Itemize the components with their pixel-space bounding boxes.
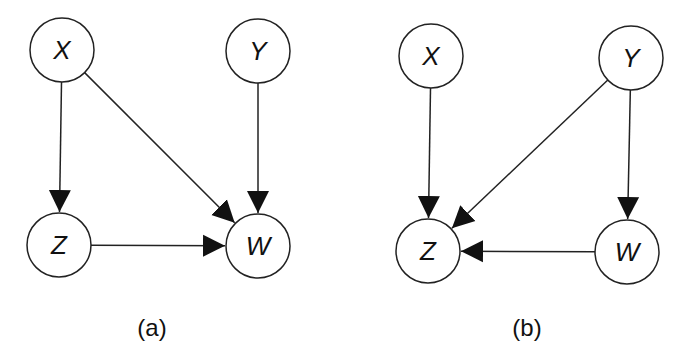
edge-x-to-z [429, 88, 431, 218]
edge-y-to-w [628, 90, 631, 219]
node-w: W [226, 214, 290, 278]
diagram-caption: (a) [137, 314, 166, 341]
edge-w-to-z [461, 251, 595, 252]
node-label: X [52, 35, 72, 65]
node-label: W [615, 237, 642, 267]
node-label: X [421, 41, 441, 71]
node-x: X [30, 18, 94, 82]
node-y: Y [599, 26, 663, 90]
edge-z-to-w [91, 245, 225, 246]
causal-diagrams: XYZWXYZW (a)(b) [0, 0, 696, 363]
edge-y-to-z [452, 80, 608, 228]
node-z: Z [27, 213, 91, 277]
node-label: Z [50, 230, 68, 260]
node-label: Y [249, 36, 268, 66]
node-label: Y [622, 43, 641, 73]
edge-x-to-w [85, 73, 235, 223]
node-y: Y [226, 19, 290, 83]
edge-x-to-z [60, 82, 62, 212]
node-z: Z [396, 219, 460, 283]
diagram-caption: (b) [512, 314, 541, 341]
node-x: X [399, 24, 463, 88]
node-label: Z [419, 236, 437, 266]
node-label: W [246, 231, 273, 261]
node-w: W [595, 220, 659, 284]
